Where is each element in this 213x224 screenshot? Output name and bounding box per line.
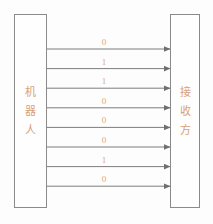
transmission-arrows: [0, 0, 213, 224]
bit-label: 0: [97, 37, 111, 47]
bit-label: 1: [97, 57, 111, 67]
bit-label: 1: [97, 76, 111, 86]
bit-label: 1: [97, 155, 111, 165]
bit-label: 0: [97, 174, 111, 184]
bit-label: 0: [97, 115, 111, 125]
diagram-canvas: 机 器 人 接 收 方 01100010: [0, 0, 213, 224]
bit-label: 0: [97, 96, 111, 106]
bit-label: 0: [97, 135, 111, 145]
